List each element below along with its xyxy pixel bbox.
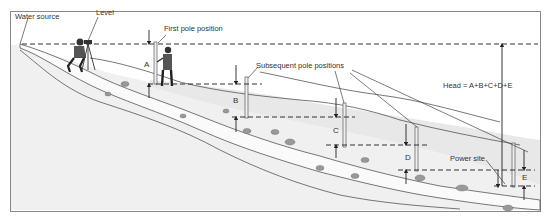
head-measurement-diagram: Water source Level First pole position S… (0, 0, 544, 222)
pole-b (245, 77, 248, 118)
segment-label-a: A (144, 60, 150, 69)
label-level: Level (96, 8, 114, 17)
label-subsequent-poles: Subsequent pole positions (256, 61, 344, 70)
pole-c (343, 103, 346, 147)
segment-label-d: D (405, 153, 411, 162)
segment-label-c: C (333, 126, 339, 135)
segment-label-b: B (233, 96, 238, 105)
label-power-site: Power site (450, 154, 485, 163)
label-first-pole: First pole position (164, 24, 223, 33)
label-water-source: Water source (15, 12, 59, 21)
label-head-formula: Head = A+B+C+D+E (443, 81, 512, 90)
pole-d (415, 127, 418, 171)
pole-e (512, 143, 515, 187)
segment-label-e: E (522, 173, 527, 182)
